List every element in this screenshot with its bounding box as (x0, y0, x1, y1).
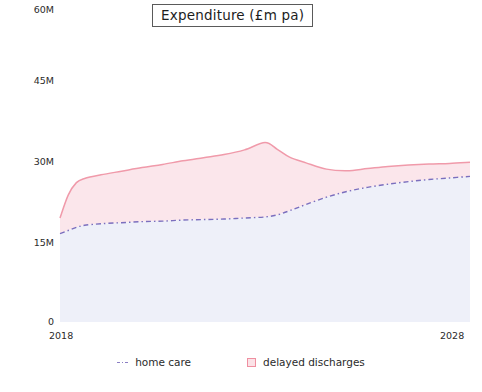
legend-item-home-care[interactable]: home care (117, 356, 191, 368)
chart-legend: home care delayed discharges (0, 352, 482, 372)
expenditure-area-chart: Expenditure (£m pa) £ 60M 45M 30M 15M 0 … (0, 0, 482, 392)
square-marker-icon (247, 358, 256, 367)
dotted-line-marker-icon (117, 358, 128, 367)
legend-label-home-care: home care (135, 356, 191, 368)
legend-item-delayed-discharges[interactable]: delayed discharges (247, 356, 365, 368)
legend-label-delayed-discharges: delayed discharges (263, 356, 365, 368)
plot-area (0, 0, 482, 392)
